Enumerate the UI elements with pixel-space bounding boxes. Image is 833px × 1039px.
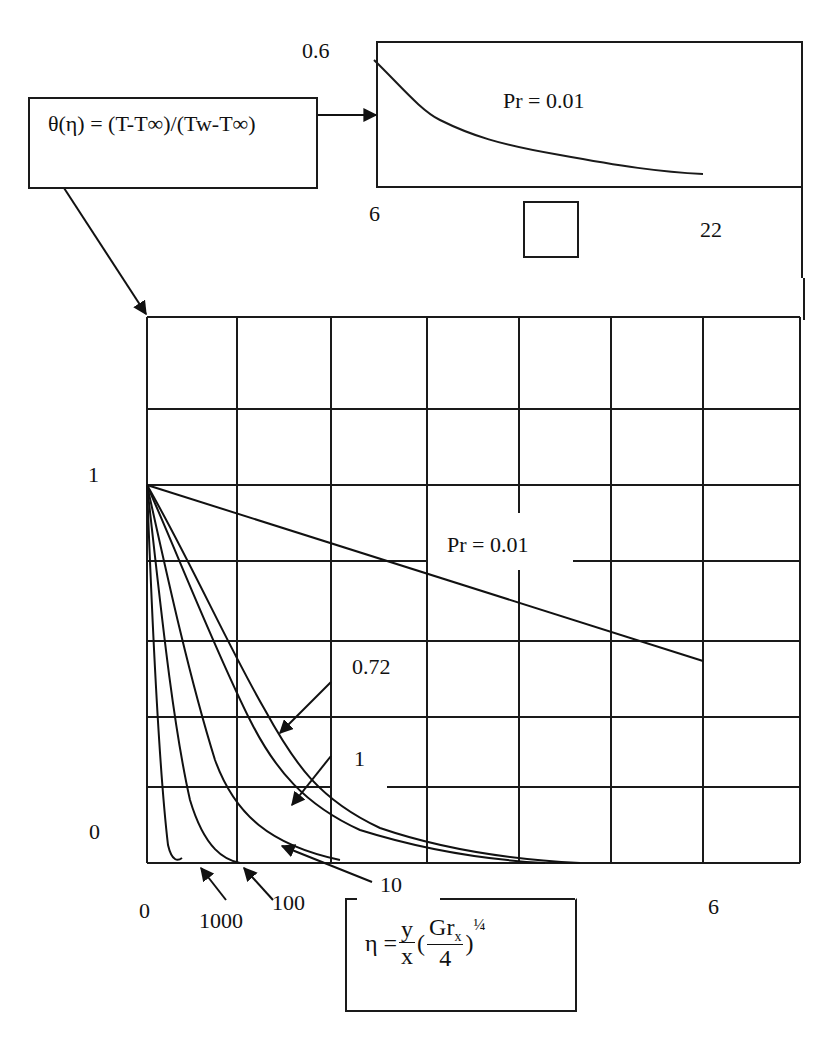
arrow-pr-100 (244, 868, 273, 900)
eta-frac1-num: y (399, 917, 415, 943)
curve-label-pr-072: 0.72 (352, 656, 391, 678)
eta-frac1-den: x (401, 943, 413, 969)
y-tick-1: 1 (88, 464, 99, 486)
arrow-theta-to-main (64, 188, 146, 314)
theta-definition-label: θ(η) = (T-T∞)/(Tw-T∞) (48, 113, 256, 135)
curve-label-pr-1000: 1000 (199, 910, 243, 932)
inset-curve-label: Pr = 0.01 (503, 90, 584, 112)
curve-pr-001 (147, 485, 703, 661)
y-tick-0: 0 (89, 821, 100, 843)
x-tick-0: 0 (139, 900, 150, 922)
eta-open-paren: ( (417, 930, 425, 957)
eta-frac2-num: Grx (427, 915, 463, 945)
eta-frac-y-over-x: y x (399, 917, 415, 970)
eta-frac2-den: 4 (439, 945, 451, 971)
main-curves (147, 485, 703, 863)
inset-curve-pr-001 (374, 60, 703, 174)
eta-frac-gr-over-4: Grx 4 (427, 915, 463, 972)
main-grid (147, 317, 800, 863)
arrow-pr-072 (280, 682, 331, 733)
eta-close-paren: ) (465, 930, 473, 957)
legend-square (523, 201, 579, 258)
curve-label-pr-001: Pr = 0.01 (447, 534, 528, 556)
inset-frame (377, 42, 802, 187)
eta-box-top-left-edge (345, 898, 357, 900)
x-tick-6: 6 (708, 896, 719, 918)
gr-subscript: x (454, 929, 461, 944)
curve-label-pr-100: 100 (272, 892, 305, 914)
curve-label-pr-1: 1 (354, 748, 365, 770)
curve-pr-100 (147, 485, 240, 863)
eta-definition-formula: η = y x ( Grx 4 ) ¼ (365, 915, 485, 972)
inset-x-tick-left: 6 (369, 203, 380, 225)
arrow-pr-1000 (201, 868, 226, 900)
inset-x-tick-right: 22 (700, 219, 722, 241)
inset-y-tick-top: 0.6 (302, 40, 330, 62)
eta-box-top-right-edge (440, 898, 575, 900)
curve-label-pr-10: 10 (380, 874, 402, 896)
inset-chart (374, 42, 804, 320)
gr-symbol: Gr (429, 914, 454, 940)
eta-lhs: η = (365, 930, 397, 957)
eta-exponent: ¼ (473, 916, 485, 934)
